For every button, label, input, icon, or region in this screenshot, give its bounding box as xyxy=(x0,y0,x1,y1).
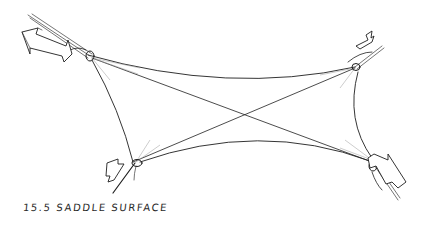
corner-bottom-right xyxy=(368,154,406,200)
tension-arrow-icon xyxy=(22,28,72,62)
figure-caption: 15.5 SADDLE SURFACE xyxy=(22,202,168,213)
tension-arrow-icon xyxy=(356,31,374,49)
membrane-edges xyxy=(88,55,372,162)
corner-bottom-left xyxy=(106,159,142,193)
corner-top-left xyxy=(22,14,94,62)
tension-arrow-icon xyxy=(106,159,124,182)
saddle-surface-diagram xyxy=(0,0,435,234)
corner-top-right xyxy=(348,31,384,71)
